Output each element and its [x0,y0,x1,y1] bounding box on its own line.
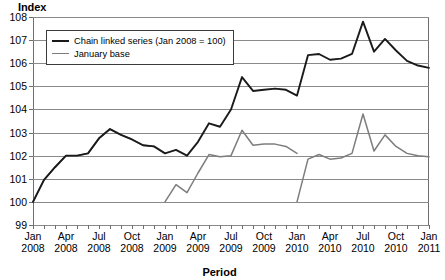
x-tick-mark [286,225,287,229]
x-tick-mark [363,225,364,229]
x-tick-mark [132,225,133,229]
x-tick-mark [242,225,243,229]
legend-swatch-january-base [52,53,69,54]
x-tick-mark [209,225,210,229]
series-line-january-base-0 [33,129,154,202]
y-tick-label: 99 [0,219,27,231]
chart-legend: Chain linked series (Jan 2008 = 100) Jan… [46,30,234,65]
x-tick-mark [99,225,100,229]
x-tick-mark [253,225,254,229]
x-tick-mark [77,225,78,229]
x-tick-mark [88,225,89,229]
legend-item-january-base: January base [52,48,226,61]
x-tick-label-year: 2011 [407,243,445,255]
x-tick-mark [341,225,342,229]
x-tick-label: Jan2011 [407,231,445,254]
legend-label-chain-linked: Chain linked series (Jan 2008 = 100) [74,35,226,48]
y-tick-label: 108 [0,11,27,23]
x-tick-label-month: Jan [407,231,445,243]
y-tick-label: 104 [0,103,27,115]
y-tick-label: 100 [0,196,27,208]
x-tick-mark [44,225,45,229]
x-tick-mark [231,225,232,229]
x-tick-mark [308,225,309,229]
legend-label-january-base: January base [74,48,130,61]
x-tick-mark [374,225,375,229]
y-tick-label: 105 [0,80,27,92]
x-tick-mark [165,225,166,229]
x-tick-mark [319,225,320,229]
x-tick-mark [429,225,430,229]
x-tick-mark [396,225,397,229]
x-tick-mark [198,225,199,229]
series-line-january-base-2 [297,114,429,202]
x-tick-mark [330,225,331,229]
x-tick-mark [110,225,111,229]
x-tick-mark [187,225,188,229]
x-tick-mark [352,225,353,229]
x-tick-mark [297,225,298,229]
y-tick-label: 106 [0,57,27,69]
x-tick-mark [55,225,56,229]
x-tick-mark [143,225,144,229]
x-tick-mark [66,225,67,229]
legend-item-chain-linked: Chain linked series (Jan 2008 = 100) [52,35,226,48]
y-tick-label: 101 [0,173,27,185]
x-tick-mark [264,225,265,229]
x-tick-mark [418,225,419,229]
x-tick-mark [385,225,386,229]
series-line-january-base-1 [165,130,297,202]
x-tick-mark [33,225,34,229]
y-tick-label: 103 [0,127,27,139]
x-tick-mark [407,225,408,229]
x-tick-mark [176,225,177,229]
x-tick-mark [154,225,155,229]
x-tick-mark [220,225,221,229]
y-tick-label: 107 [0,34,27,46]
x-tick-mark [121,225,122,229]
y-tick-label: 102 [0,150,27,162]
legend-swatch-chain-linked [52,40,69,42]
x-tick-mark [275,225,276,229]
x-axis-title: Period [0,266,439,278]
